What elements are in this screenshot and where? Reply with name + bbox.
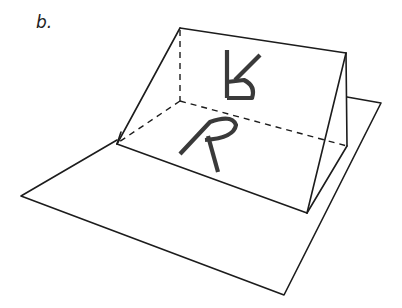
prism-right-base-edge [307,146,347,213]
ground-plane [21,97,381,295]
prism-reflection-diagram: b. [0,0,402,308]
letter-r-on-plane [180,119,236,172]
reflected-letter-r [227,50,260,98]
diagram-drawing [0,0,402,308]
prism-left-slant [117,28,180,144]
prism-right-slant [307,53,346,213]
prism-back-right-vertical [346,53,347,146]
prism-top-edge [180,28,346,53]
